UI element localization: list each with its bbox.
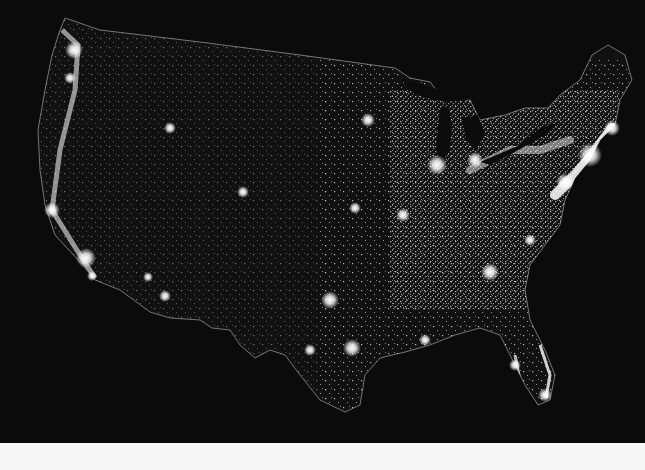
night-lights-map	[0, 0, 645, 443]
bottom-margin	[0, 443, 645, 470]
us-map-svg	[0, 0, 645, 443]
